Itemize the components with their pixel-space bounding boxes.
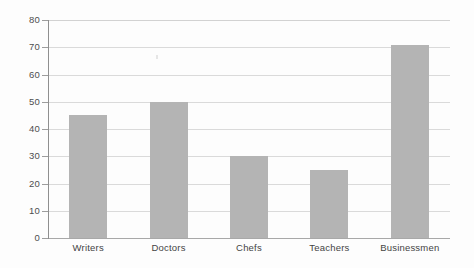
y-tick-20 [42,184,48,185]
y-axis-labels: 80706050403020100 [4,0,40,268]
bar-businessmen [391,45,429,238]
gridline-80 [48,20,450,21]
x-axis-tick-label: Businessmen [370,243,450,253]
y-tick-0 [42,238,48,239]
x-axis-tick-label: Writers [48,243,128,253]
x-axis-tick-label: Doctors [128,243,208,253]
gridline-50 [48,102,450,103]
y-tick-80 [42,20,48,21]
y-axis-line [48,20,49,239]
y-axis-tick-label: 20 [10,179,40,189]
y-tick-30 [42,156,48,157]
gridline-0 [48,238,450,239]
x-axis-tick-label: Chefs [209,243,289,253]
bar-writers [69,115,107,238]
y-axis-tick-label: 30 [10,151,40,161]
bar-chart: 80706050403020100 WritersDoctorsChefsTea… [0,0,474,268]
bar-teachers [310,170,348,238]
x-axis-tick-label: Teachers [289,243,369,253]
y-axis-tick-label: 70 [10,42,40,52]
y-tick-50 [42,102,48,103]
y-axis-tick-label: 0 [10,233,40,243]
y-tick-40 [42,129,48,130]
bar-chefs [230,156,268,238]
y-tick-70 [42,47,48,48]
y-tick-10 [42,211,48,212]
y-axis-tick-label: 50 [10,97,40,107]
y-axis-tick-label: 10 [10,206,40,216]
y-tick-60 [42,75,48,76]
bar-doctors [150,102,188,238]
gridline-40 [48,129,450,130]
y-axis-tick-label: 40 [10,124,40,134]
gridline-60 [48,75,450,76]
plot-area [48,20,450,238]
gridline-70 [48,47,450,48]
y-axis-tick-label: 80 [10,15,40,25]
scan-artifact-speck [156,55,158,59]
y-axis-tick-label: 60 [10,70,40,80]
